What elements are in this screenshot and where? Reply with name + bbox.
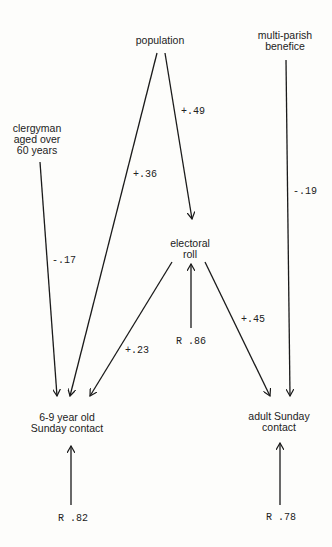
node-label: contact <box>248 422 309 433</box>
diagram-arrows <box>0 0 332 547</box>
node-label: roll <box>170 249 210 260</box>
arrow-electoral-to-child <box>90 262 172 396</box>
arrow-clergyman-to-child <box>40 162 57 396</box>
node-population: population <box>136 35 184 46</box>
coef-electoral-adult: +.45 <box>241 314 265 325</box>
node-electoral-roll: electoral roll <box>170 238 210 260</box>
node-label: 60 years <box>13 145 61 156</box>
residual-electoral: R .86 <box>176 336 206 347</box>
arrow-population-to-electoral <box>165 53 192 219</box>
node-label: Sunday contact <box>31 423 103 434</box>
coef-population-electoral: +.49 <box>181 106 205 117</box>
coef-electoral-child: +.23 <box>125 345 149 356</box>
node-adult-sunday-contact: adult Sunday contact <box>248 411 309 433</box>
residual-adult: R .78 <box>266 512 296 523</box>
arrow-multiparish-to-adult <box>286 60 290 396</box>
coef-population-child: +.36 <box>133 169 157 180</box>
residual-child: R .82 <box>58 513 88 524</box>
node-child-sunday-contact: 6-9 year old Sunday contact <box>31 412 103 434</box>
node-multi-parish-benefice: multi-parish benefice <box>258 30 312 52</box>
node-label: benefice <box>258 41 312 52</box>
node-clergyman-over-60: clergyman aged over 60 years <box>13 123 61 156</box>
coef-multiparish-adult: -.19 <box>293 186 317 197</box>
arrow-electoral-to-adult <box>205 262 270 396</box>
coef-clergyman-child: -.17 <box>52 255 76 266</box>
node-label: population <box>136 34 184 46</box>
path-diagram: population multi-parish benefice clergym… <box>0 0 332 547</box>
